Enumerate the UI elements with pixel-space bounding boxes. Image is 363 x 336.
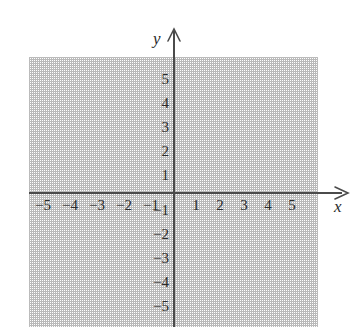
x-tick-label-2: 2	[210, 198, 230, 213]
y-axis-arrow-icon	[166, 27, 182, 43]
y-axis-line	[173, 31, 175, 327]
x-tick-label-neg5: −5	[35, 198, 51, 213]
x-tick-label-neg2: −2	[116, 198, 132, 213]
y-tick-label-neg5: −5	[147, 299, 169, 314]
x-axis-label: x	[334, 198, 342, 215]
y-tick-label-3: 3	[153, 120, 169, 135]
y-tick-label-neg4: −4	[147, 275, 169, 290]
y-tick-label-neg3: −3	[147, 251, 169, 266]
x-tick-label-5: 5	[282, 198, 302, 213]
coordinate-plane: y x −5 −4 −3 −2 −1 1 2 3 4 5 5 4 3 2 1 −…	[0, 0, 363, 336]
x-tick-label-neg3: −3	[89, 198, 105, 213]
y-tick-label-neg2: −2	[147, 227, 169, 242]
x-tick-label-1: 1	[186, 198, 206, 213]
y-axis-label: y	[153, 30, 161, 47]
y-tick-label-2: 2	[153, 144, 169, 159]
x-tick-label-3: 3	[234, 198, 254, 213]
x-tick-label-neg4: −4	[62, 198, 78, 213]
y-tick-label-neg1: −1	[147, 203, 169, 218]
y-tick-label-1: 1	[153, 168, 169, 183]
y-tick-label-4: 4	[153, 96, 169, 111]
y-tick-label-5: 5	[153, 72, 169, 87]
x-axis-line	[29, 192, 342, 194]
x-tick-label-4: 4	[258, 198, 278, 213]
